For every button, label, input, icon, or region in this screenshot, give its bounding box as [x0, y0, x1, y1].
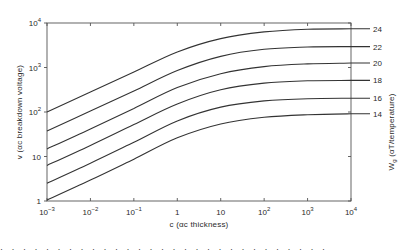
x-axis-ticks: 10−310−210−1110102103104 — [39, 23, 358, 217]
curve-series-16 — [47, 98, 370, 183]
curve-series-22 — [47, 47, 370, 132]
curve-series-18 — [47, 80, 370, 165]
series-labels: 242220181614 — [373, 25, 382, 119]
x-tick-label: 10−2 — [83, 206, 99, 217]
x-tick-label: 104 — [345, 206, 358, 217]
series-label-20: 20 — [373, 59, 382, 68]
y-tick-label: 10 — [32, 153, 41, 162]
curve-series-24 — [47, 29, 370, 112]
series-label-22: 22 — [373, 43, 382, 52]
right-axis-title-rest: (αT/temperature) — [387, 93, 396, 159]
cropped-caption: · · · · · · · · · · · · · · · · · · · · … — [0, 247, 406, 252]
y-tick-label: 1 — [37, 197, 42, 206]
y-tick-label: 103 — [29, 62, 42, 73]
x-tick-label: 1 — [175, 208, 180, 217]
curve-series-20 — [47, 63, 370, 149]
series-label-24: 24 — [373, 25, 382, 34]
right-axis-title: Wg (αT/temperature) — [387, 93, 397, 170]
line-chart: 10−310−210−1110102103104 110102103104 24… — [0, 0, 406, 252]
data-curves — [47, 29, 370, 200]
y-axis-title: v (αc breakdown voltage) — [15, 65, 24, 159]
x-tick-label: 10−3 — [39, 206, 55, 217]
series-label-16: 16 — [373, 94, 382, 103]
plot-border — [47, 23, 351, 201]
y-tick-label: 102 — [29, 106, 42, 117]
y-axis-ticks: 110102103104 — [29, 17, 351, 206]
x-tick-label: 103 — [301, 206, 314, 217]
caption-text: · · · · · · · · · · · · · · · · · · · · … — [0, 247, 406, 252]
series-label-14: 14 — [373, 110, 382, 119]
plot-frame — [47, 23, 351, 201]
x-tick-label: 10 — [216, 208, 225, 217]
series-label-18: 18 — [373, 76, 382, 85]
x-tick-label: 10−1 — [126, 206, 142, 217]
y-tick-label: 104 — [29, 17, 42, 28]
x-axis-title: c (αc thickness) — [170, 220, 229, 229]
x-tick-label: 102 — [258, 206, 271, 217]
